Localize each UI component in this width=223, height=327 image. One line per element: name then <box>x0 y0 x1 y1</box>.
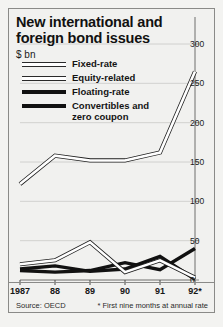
x-axis-tick-91: 91 <box>155 286 165 296</box>
legend-swatch-hollow-icon <box>22 62 66 67</box>
legend-item-convertibles: Convertibles and zero coupon <box>22 100 172 124</box>
chart-figure: New international and foreign bond issue… <box>0 0 223 327</box>
legend-item-fixed-rate: Fixed-rate <box>22 58 172 71</box>
footnote-label: * First nine months at annual rate <box>98 301 208 310</box>
x-axis-band: 19878889909192* Source: OECD * First nin… <box>9 282 214 314</box>
legend-swatch-solid-icon <box>22 104 66 108</box>
y-axis-tick-50: 50 <box>190 236 212 246</box>
y-axis-tick-150: 150 <box>190 157 212 167</box>
legend-label-fixed-rate: Fixed-rate <box>72 58 117 69</box>
x-axis-tick-90: 90 <box>120 286 130 296</box>
x-axis-labels: 19878889909192* <box>9 286 214 298</box>
legend-item-floating-rate: Floating-rate <box>22 86 172 99</box>
legend-swatch-hollow-icon <box>22 76 66 81</box>
legend-label-equity-related: Equity-related <box>72 72 135 83</box>
title-line-2: foreign bond issues <box>16 30 191 46</box>
title-line-1: New international and <box>16 14 191 30</box>
legend-item-equity-related: Equity-related <box>22 72 172 85</box>
x-axis-tick-92star: 92* <box>188 286 202 296</box>
chart-legend: Fixed-rate Equity-related Floating-rate … <box>22 58 172 125</box>
legend-label-convertibles-line2: zero coupon <box>72 111 128 122</box>
legend-label-convertibles-line1: Convertibles and <box>72 100 149 111</box>
y-axis-tick-300: 300 <box>190 39 212 49</box>
legend-swatch-solid-icon <box>22 90 66 94</box>
x-axis-tick-1987: 1987 <box>10 286 30 296</box>
legend-label-floating-rate: Floating-rate <box>72 86 130 97</box>
chart-footer: Source: OECD * First nine months at annu… <box>9 301 214 313</box>
title-block: New international and foreign bond issue… <box>16 14 191 61</box>
y-axis-tick-250: 250 <box>190 78 212 88</box>
x-axis-tick-89: 89 <box>85 286 95 296</box>
source-label: Source: OECD <box>16 301 66 310</box>
legend-label-convertibles: Convertibles and zero coupon <box>72 100 149 122</box>
y-axis-tick-100: 100 <box>190 196 212 206</box>
x-axis-tick-88: 88 <box>50 286 60 296</box>
y-axis-tick-200: 200 <box>190 118 212 128</box>
page-title: New international and foreign bond issue… <box>16 14 191 46</box>
